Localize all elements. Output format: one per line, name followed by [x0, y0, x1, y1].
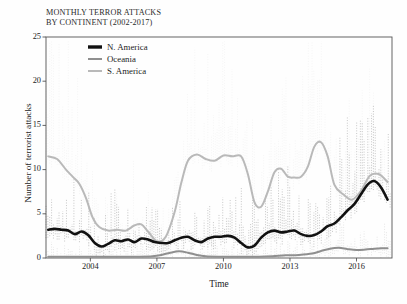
series-line-s-america: [48, 142, 387, 242]
chart-figure: MONTHLY TERROR ATTACKS BY CONTINENT (200…: [0, 0, 407, 304]
series-line-n-america: [48, 181, 387, 248]
series-line-oceania: [48, 248, 387, 257]
plot-canvas: [0, 0, 407, 304]
